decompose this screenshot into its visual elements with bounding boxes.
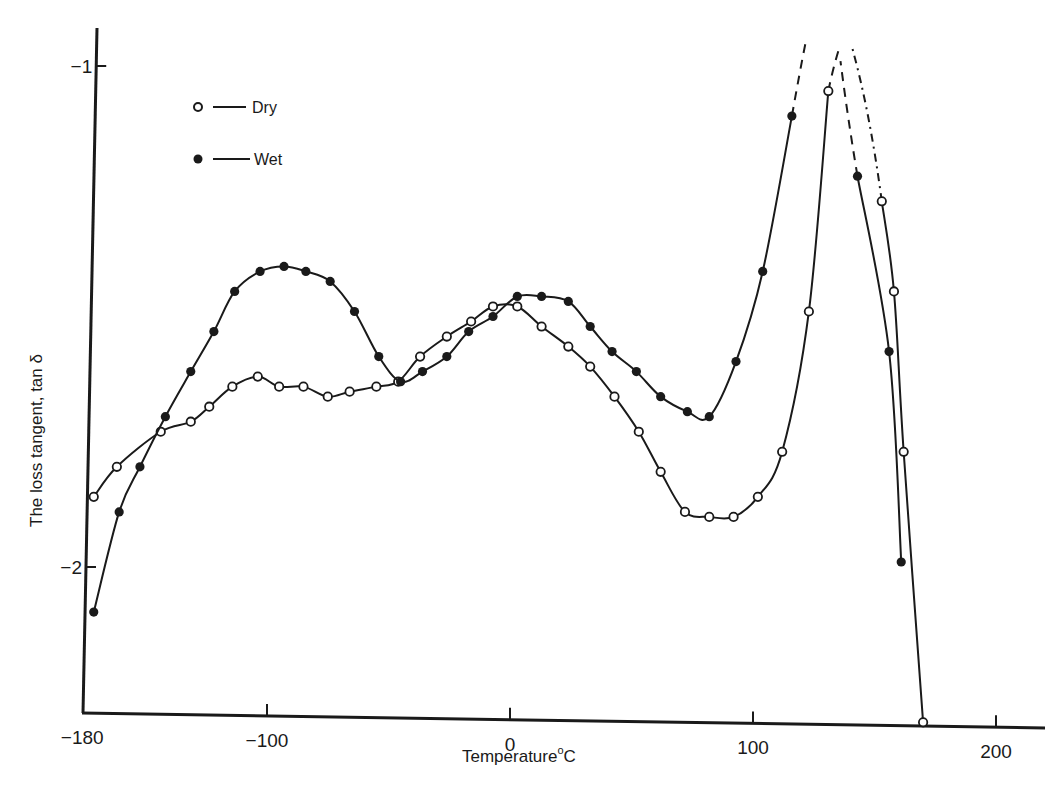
open-circle-marker-icon (345, 387, 353, 395)
filled-circle-marker-icon (513, 292, 522, 301)
open-circle-marker-icon (729, 513, 737, 521)
x-tick-label: −100 (246, 730, 289, 751)
filled-circle-marker-icon (442, 352, 451, 361)
filled-circle-marker-icon (374, 352, 383, 361)
open-circle-marker-icon (878, 197, 886, 205)
open-circle-marker-icon (754, 493, 762, 501)
extrapolation-dashed (828, 51, 838, 91)
extrapolation-dashed (840, 61, 857, 176)
filled-circle-marker-icon (186, 367, 195, 376)
filled-circle-marker-icon (537, 292, 546, 301)
x-axis-title-text: Temperature (462, 747, 557, 766)
series-line (882, 201, 923, 722)
x-tick-label: −180 (61, 727, 104, 748)
filled-circle-marker-icon (488, 312, 497, 321)
filled-circle-marker-icon (255, 267, 264, 276)
filled-circle-marker-icon (607, 347, 616, 356)
filled-circle-marker-icon (230, 287, 239, 296)
filled-circle-marker-icon (326, 277, 335, 286)
filled-circle-marker-icon (656, 392, 665, 401)
filled-circle-marker-icon (301, 267, 310, 276)
filled-circle-marker-icon (758, 267, 767, 276)
loss-tangent-chart: −180−1000100200 −1−2 TemperatureoC The l… (0, 0, 1063, 795)
series-dry (90, 46, 928, 726)
axes: −180−1000100200 −1−2 (60, 28, 1045, 762)
legend-item-dry: Dry (194, 99, 277, 116)
series-line (857, 176, 901, 562)
filled-circle-marker-icon (464, 327, 473, 336)
open-circle-marker-icon (564, 342, 572, 350)
open-circle-marker-icon (919, 718, 927, 726)
filled-circle-marker-icon (209, 327, 218, 336)
open-circle-marker-icon (416, 352, 424, 360)
filled-circle-marker-icon (89, 607, 98, 616)
open-circle-marker-icon (513, 302, 521, 310)
y-tick-label: −2 (60, 557, 82, 578)
x-tick-label: 200 (980, 741, 1012, 762)
series-layer (89, 41, 927, 726)
legend-label-dry: Dry (252, 99, 277, 116)
x-axis-title: TemperatureoC (462, 744, 576, 766)
filled-circle-marker-icon (115, 507, 124, 516)
open-circle-marker-icon (194, 103, 202, 111)
extrapolation-dashed (792, 41, 806, 116)
series-line (94, 116, 792, 612)
filled-circle-marker-icon (564, 297, 573, 306)
open-circle-marker-icon (778, 448, 786, 456)
filled-circle-marker-icon (279, 262, 288, 271)
open-circle-marker-icon (205, 402, 213, 410)
filled-circle-marker-icon (731, 357, 740, 366)
open-circle-marker-icon (187, 418, 195, 426)
filled-circle-marker-icon (897, 557, 906, 566)
open-circle-marker-icon (635, 428, 643, 436)
filled-circle-marker-icon (161, 412, 170, 421)
series-line (94, 91, 829, 519)
legend: Dry Wet (194, 99, 283, 168)
open-circle-marker-icon (805, 307, 813, 315)
filled-circle-marker-icon (787, 112, 796, 121)
filled-circle-marker-icon (586, 322, 595, 331)
filled-circle-marker-icon (396, 377, 405, 386)
open-circle-marker-icon (610, 392, 618, 400)
filled-circle-marker-icon (853, 172, 862, 181)
open-circle-marker-icon (824, 87, 832, 95)
filled-circle-marker-icon (135, 462, 144, 471)
filled-circle-marker-icon (350, 307, 359, 316)
open-circle-marker-icon (705, 513, 713, 521)
open-circle-marker-icon (656, 468, 664, 476)
open-circle-marker-icon (537, 322, 545, 330)
y-axis-title: The loss tangent, tan δ (27, 354, 46, 527)
open-circle-marker-icon (299, 382, 307, 390)
filled-circle-marker-icon (418, 367, 427, 376)
open-circle-marker-icon (586, 362, 594, 370)
y-tick-label: −1 (71, 56, 93, 77)
legend-label-wet: Wet (254, 151, 283, 168)
legend-item-wet: Wet (194, 151, 283, 168)
filled-circle-marker-icon (632, 367, 641, 376)
filled-circle-marker-icon (683, 407, 692, 416)
open-circle-marker-icon (681, 508, 689, 516)
open-circle-marker-icon (467, 317, 475, 325)
filled-circle-marker-icon (884, 347, 893, 356)
open-circle-marker-icon (443, 332, 451, 340)
open-circle-marker-icon (489, 302, 497, 310)
open-circle-marker-icon (254, 372, 262, 380)
filled-circle-marker-icon (705, 412, 714, 421)
open-circle-marker-icon (890, 287, 898, 295)
open-circle-marker-icon (113, 463, 121, 471)
open-circle-marker-icon (90, 493, 98, 501)
x-axis-line (82, 713, 1045, 728)
y-ticks: −1−2 (60, 56, 106, 578)
x-tick-label: 100 (737, 737, 769, 758)
open-circle-marker-icon (899, 448, 907, 456)
open-circle-marker-icon (372, 382, 380, 390)
series-wet (89, 41, 906, 617)
x-axis-unit: C (564, 747, 576, 766)
filled-circle-marker-icon (194, 155, 203, 164)
open-circle-marker-icon (228, 382, 236, 390)
open-circle-marker-icon (275, 382, 283, 390)
open-circle-marker-icon (324, 392, 332, 400)
